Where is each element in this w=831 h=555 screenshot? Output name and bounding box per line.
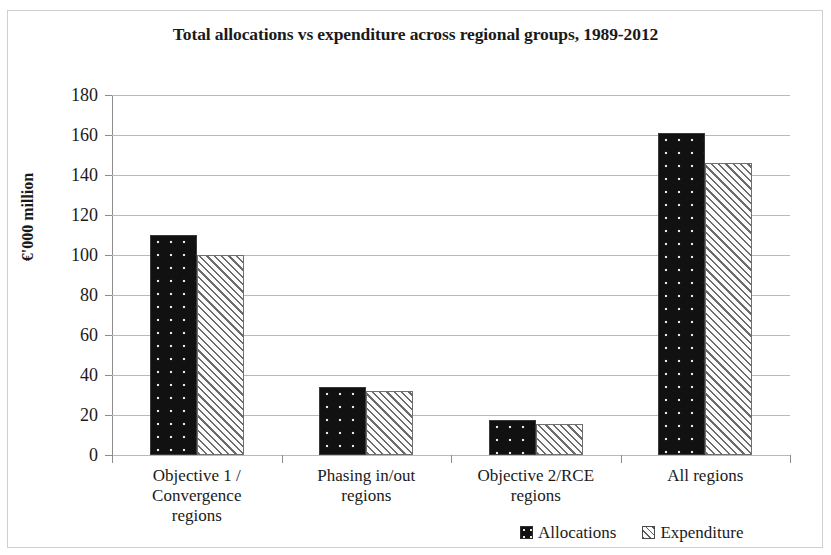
bar-allocations xyxy=(489,420,536,455)
legend-label: Expenditure xyxy=(660,524,743,541)
category-label-line: All regions xyxy=(621,466,791,486)
y-axis-tick-label: 120 xyxy=(38,206,98,224)
y-axis-title: €'000 million xyxy=(19,137,37,297)
bar-expenditure xyxy=(536,424,583,455)
gridline xyxy=(112,95,790,96)
x-axis-category-label: Objective 1 /Convergenceregions xyxy=(112,466,282,526)
category-label-line: Objective 1 / xyxy=(112,466,282,486)
bar-expenditure xyxy=(197,255,244,455)
allocations-swatch xyxy=(520,526,533,539)
category-label-line: regions xyxy=(282,486,452,506)
y-axis-tick xyxy=(105,295,112,296)
x-axis-category-label: All regions xyxy=(621,466,791,486)
bar-expenditure xyxy=(366,391,413,455)
bar-allocations xyxy=(319,387,366,455)
y-axis-tick-label: 40 xyxy=(38,366,98,384)
category-label-line: regions xyxy=(112,506,282,526)
legend-item[interactable]: Allocations xyxy=(520,524,616,541)
category-label-line: Objective 2/RCE xyxy=(451,466,621,486)
x-axis-tick xyxy=(790,455,791,463)
x-axis-tick xyxy=(621,455,622,463)
legend-label: Allocations xyxy=(538,524,616,541)
y-axis-tick xyxy=(105,375,112,376)
y-axis-tick-labels: 180160140120100806040200 xyxy=(38,0,98,555)
y-axis-tick-label: 60 xyxy=(38,326,98,344)
plot-area xyxy=(112,95,790,455)
y-axis-tick xyxy=(105,415,112,416)
expenditure-swatch xyxy=(642,526,655,539)
chart-figure: Total allocations vs expenditure across … xyxy=(0,0,831,555)
y-axis-tick-label: 100 xyxy=(38,246,98,264)
y-axis-tick xyxy=(105,255,112,256)
y-axis-tick xyxy=(105,95,112,96)
chart-legend: AllocationsExpenditure xyxy=(520,524,743,541)
x-axis-tick xyxy=(451,455,452,463)
y-axis-tick-label: 80 xyxy=(38,286,98,304)
y-axis-tick-label: 0 xyxy=(38,446,98,464)
bar-expenditure xyxy=(705,163,752,455)
y-axis-tick-label: 160 xyxy=(38,126,98,144)
y-axis-tick xyxy=(105,335,112,336)
x-axis-tick xyxy=(112,455,113,463)
y-axis-tick xyxy=(105,215,112,216)
y-axis-tick-label: 20 xyxy=(38,406,98,424)
y-axis-tick xyxy=(105,455,112,456)
bar-allocations xyxy=(658,133,705,455)
chart-title: Total allocations vs expenditure across … xyxy=(0,24,831,45)
category-label-line: regions xyxy=(451,486,621,506)
legend-item[interactable]: Expenditure xyxy=(642,524,743,541)
x-axis-category-label: Objective 2/RCEregions xyxy=(451,466,621,506)
y-axis-tick-label: 180 xyxy=(38,86,98,104)
y-axis-tick xyxy=(105,135,112,136)
category-label-line: Phasing in/out xyxy=(282,466,452,486)
x-axis-tick xyxy=(282,455,283,463)
x-axis-category-label: Phasing in/outregions xyxy=(282,466,452,506)
y-axis-tick-label: 140 xyxy=(38,166,98,184)
y-axis-tick xyxy=(105,175,112,176)
bar-allocations xyxy=(150,235,197,455)
category-label-line: Convergence xyxy=(112,486,282,506)
